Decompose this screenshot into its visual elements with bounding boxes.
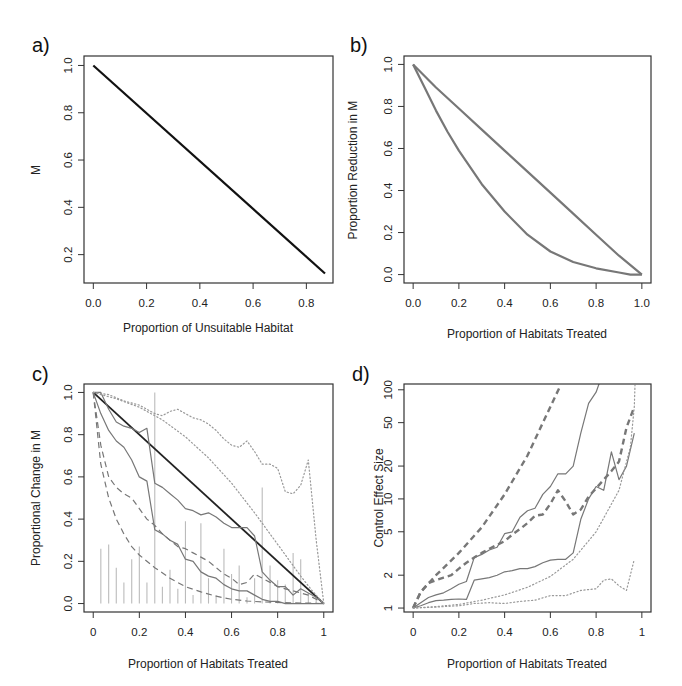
x-axis-title-b: Proportion of Habitats Treated	[447, 327, 607, 341]
x-tick-label: 0.2	[451, 297, 467, 309]
x-tick-label: 0.4	[497, 626, 514, 638]
plot-area-a: 0.00.20.40.60.80.20.40.60.81.0	[62, 56, 333, 309]
x-axis-title-c: Proportion of Habitats Treated	[128, 657, 288, 671]
plot-area-c: 00.20.40.60.810.00.20.40.60.81.0	[62, 384, 333, 638]
y-tick-label: 2	[382, 572, 394, 578]
series-dashed-steep	[413, 388, 559, 609]
series-solid-upper	[413, 381, 600, 608]
y-tick-label: 0.6	[382, 140, 394, 156]
panel-label-a: a)	[32, 34, 50, 56]
x-tick-label: 0	[410, 626, 416, 638]
y-tick-label: 0.4	[382, 182, 394, 199]
series-dotted-upper	[413, 385, 635, 608]
x-tick-label: 0.8	[298, 297, 314, 309]
x-tick-label: 1	[321, 626, 327, 638]
y-tick-label: 0.6	[62, 469, 74, 485]
x-tick-label: 1.0	[634, 297, 650, 309]
x-tick-label: 0.8	[270, 626, 286, 638]
series-upper	[413, 64, 642, 274]
y-tick-label: 0.4	[62, 511, 74, 528]
x-tick-label: 0.4	[177, 626, 194, 638]
x-tick-label: 0.6	[245, 297, 261, 309]
y-tick-label: 50	[382, 416, 394, 429]
y-tick-label: 0.6	[62, 152, 74, 168]
x-tick-label: 0.8	[588, 297, 604, 309]
plot-area-d: 00.20.40.60.81125102050100	[382, 380, 651, 638]
panel-label-d: d)	[352, 363, 370, 385]
y-tick-label: 0.8	[382, 98, 394, 114]
series-group	[413, 381, 635, 608]
y-tick-label: 1	[382, 605, 394, 611]
plot-frame	[404, 56, 651, 283]
x-tick-label: 0.0	[405, 297, 421, 309]
panel-c: c) 00.20.40.60.810.00.20.40.60.81.0 Prop…	[29, 363, 333, 671]
series-dashed-mid	[413, 407, 634, 608]
x-tick-label: 0.4	[192, 297, 209, 309]
series-group	[413, 64, 642, 274]
series-lower	[413, 64, 642, 274]
x-tick-label: 0.4	[497, 297, 514, 309]
y-tick-label: 1.0	[382, 56, 394, 72]
series-group	[93, 392, 324, 603]
panel-label-b: b)	[350, 34, 368, 56]
y-tick-label: 1.0	[62, 57, 74, 73]
figure: a) 0.00.20.40.60.80.20.40.60.81.0 Propor…	[0, 0, 682, 686]
x-tick-label: 0	[90, 626, 96, 638]
y-tick-label: 1.0	[62, 384, 74, 400]
y-axis-title-d: Control Effect Size	[372, 448, 386, 547]
panel-d: d) 00.20.40.60.81125102050100 Proportion…	[352, 363, 651, 671]
plot-area-b: 0.00.20.40.60.81.00.00.20.40.60.81.0	[382, 56, 651, 309]
x-axis-title-a: Proportion of Unsuitable Habitat	[123, 321, 294, 335]
y-tick-label: 0.0	[382, 267, 394, 283]
panel-label-c: c)	[32, 363, 49, 385]
y-axis-title-b: Proportion Reduction in M	[346, 101, 360, 240]
series-M	[93, 66, 325, 274]
x-tick-label: 0.2	[451, 626, 467, 638]
y-tick-label: 0.0	[62, 596, 74, 612]
series-group	[93, 66, 325, 274]
series-reference	[93, 392, 324, 603]
y-axis-title-a: M	[29, 165, 43, 175]
x-axis-title-d: Proportion of Habitats Treated	[447, 657, 607, 671]
x-tick-label: 0.0	[85, 297, 101, 309]
panel-b: b) 0.00.20.40.60.81.00.00.20.40.60.81.0 …	[346, 34, 651, 341]
x-tick-label: 1	[639, 626, 645, 638]
x-tick-label: 0.6	[542, 297, 558, 309]
y-axis-title-c: Proportional Change in M	[29, 430, 43, 566]
y-tick-label: 0.2	[62, 247, 74, 263]
y-tick-label: 0.8	[62, 427, 74, 443]
y-tick-label: 0.8	[62, 105, 74, 121]
x-tick-label: 0.8	[588, 626, 604, 638]
panel-a: a) 0.00.20.40.60.80.20.40.60.81.0 Propor…	[29, 34, 333, 335]
x-tick-label: 0.6	[224, 626, 240, 638]
x-tick-label: 0.2	[131, 626, 147, 638]
series-solid-lower	[413, 433, 634, 608]
y-tick-label: 0.2	[62, 553, 74, 569]
y-tick-label: 100	[382, 380, 394, 399]
y-tick-label: 0.4	[62, 199, 74, 216]
x-tick-label: 0.6	[542, 626, 558, 638]
y-tick-label: 0.2	[382, 225, 394, 241]
x-tick-label: 0.2	[139, 297, 155, 309]
